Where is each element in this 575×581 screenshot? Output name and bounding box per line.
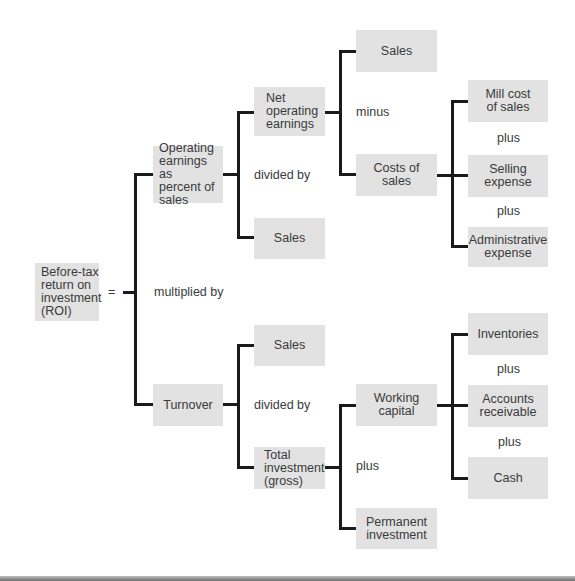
- connector: [237, 236, 254, 239]
- node-administrative-expense-label: Administrative expense: [469, 234, 548, 260]
- operator-plus-wc-2: plus: [498, 435, 521, 449]
- connector: [339, 404, 356, 407]
- node-costs-of-sales-label: Costs of sales: [358, 162, 435, 188]
- connector: [451, 100, 468, 103]
- connector: [134, 403, 153, 406]
- connector: [134, 173, 153, 176]
- node-permanent-investment: Permanent investment: [356, 508, 437, 549]
- connector: [451, 333, 454, 480]
- connector: [237, 111, 254, 114]
- node-accounts-receivable: Accounts receivable: [468, 385, 548, 427]
- operator-divided-by-oe: divided by: [254, 168, 310, 182]
- connector: [339, 50, 356, 53]
- connector: [237, 466, 254, 469]
- node-sales-top-label: Sales: [381, 45, 412, 58]
- node-sales-top: Sales: [356, 30, 437, 72]
- equals-sign: =: [108, 285, 115, 299]
- connector: [339, 50, 342, 176]
- connector: [339, 173, 356, 176]
- node-mill-cost: Mill cost of sales: [468, 80, 548, 122]
- page-bottom-edge: [0, 576, 575, 581]
- connector: [451, 245, 468, 248]
- operator-divided-by-turnover: divided by: [254, 398, 310, 412]
- node-operating-earnings-pct: Operating earnings as percent of sales: [153, 146, 223, 203]
- node-permanent-investment-label: Permanent investment: [366, 516, 427, 542]
- connector: [237, 111, 240, 239]
- connector: [339, 527, 356, 530]
- node-roi: Before-tax return on investment (ROI): [35, 263, 99, 321]
- node-administrative-expense: Administrative expense: [468, 227, 548, 267]
- node-inventories-label: Inventories: [477, 328, 538, 341]
- node-selling-expense: Selling expense: [468, 155, 548, 197]
- node-sales-turnover: Sales: [254, 325, 325, 366]
- node-working-capital: Working capital: [356, 384, 437, 426]
- node-costs-of-sales: Costs of sales: [356, 154, 437, 196]
- node-selling-expense-label: Selling expense: [484, 163, 531, 189]
- operator-plus-wc-1: plus: [497, 362, 520, 376]
- node-roi-label: Before-tax return on investment (ROI): [41, 266, 101, 318]
- connector: [451, 333, 468, 336]
- node-total-investment: Total investment (gross): [254, 447, 325, 489]
- connector: [237, 344, 240, 469]
- operator-multiplied-by: multiplied by: [154, 285, 223, 299]
- connector: [451, 477, 468, 480]
- node-cash: Cash: [468, 457, 548, 499]
- node-sales-oe: Sales: [254, 218, 325, 259]
- operator-plus-costs-2: plus: [497, 204, 520, 218]
- connector: [339, 404, 342, 530]
- node-mill-cost-label: Mill cost of sales: [485, 88, 530, 114]
- operator-plus-investment: plus: [356, 459, 379, 473]
- node-total-investment-label: Total investment (gross): [264, 449, 324, 488]
- node-net-operating-earnings: Net operating earnings: [254, 87, 325, 136]
- node-net-operating-earnings-label: Net operating earnings: [266, 92, 318, 131]
- node-operating-earnings-pct-label: Operating earnings as percent of sales: [159, 142, 217, 207]
- node-cash-label: Cash: [493, 472, 522, 485]
- connector: [451, 100, 454, 247]
- node-sales-oe-label: Sales: [274, 232, 305, 245]
- node-turnover-label: Turnover: [163, 399, 213, 412]
- connector: [134, 173, 137, 406]
- node-sales-turnover-label: Sales: [274, 339, 305, 352]
- node-turnover: Turnover: [153, 384, 223, 426]
- node-accounts-receivable-label: Accounts receivable: [480, 393, 537, 419]
- operator-minus: minus: [356, 105, 389, 119]
- node-working-capital-label: Working capital: [374, 392, 420, 418]
- node-inventories: Inventories: [468, 313, 548, 355]
- connector: [237, 344, 254, 347]
- operator-plus-costs-1: plus: [497, 131, 520, 145]
